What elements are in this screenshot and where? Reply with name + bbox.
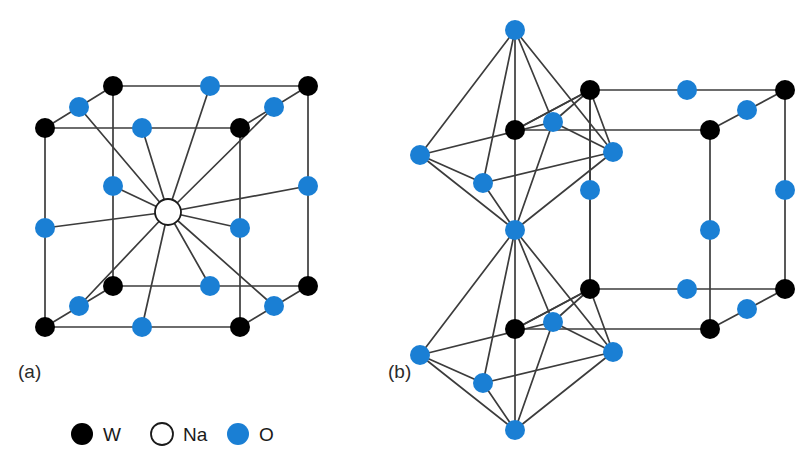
oxygen-atom [580,180,600,200]
oxygen-atom [200,76,220,96]
oxygen-atom [264,97,284,117]
tungsten-atom [35,317,55,337]
oxygen-atom [298,176,318,196]
na-o-bond [79,212,168,306]
tungsten-atom [298,76,318,96]
oxygen-atom [35,218,55,238]
na-o-bond [79,107,168,212]
legend: W Na O [71,423,274,445]
na-o-bond [168,107,274,212]
oxygen-atom [69,296,89,316]
oxygen-atom [264,296,284,316]
panel-a-label: (a) [18,361,41,382]
na-o-bond [168,86,210,212]
tungsten-legend-icon [71,423,93,445]
oxygen-atom [410,145,430,165]
oxygen-atom [103,176,123,196]
oxygen-atom [543,312,563,332]
oxygen-atom [543,112,563,132]
tungsten-atom [700,319,720,339]
octa-bond [483,230,515,383]
na-o-bond [168,212,274,306]
na-o-bond [168,186,308,212]
oxygen-atom [200,276,220,296]
octa-bond [515,230,553,322]
legend-item-sodium: Na [151,423,208,445]
tungsten-atom-octahedron-centre [505,120,525,140]
tungsten-atom [103,76,123,96]
oxygen-atom [473,373,493,393]
sodium-legend-icon [151,423,173,445]
tungsten-atom [230,317,250,337]
oxygen-atom [700,220,720,240]
legend-item-oxygen: O [227,423,274,445]
tungsten-atom-octahedron-centre [505,319,525,339]
na-o-bond [142,212,168,327]
tungsten-atom [580,279,600,299]
tungsten-atom [580,80,600,100]
oxygen-atom [677,279,697,299]
oxygen-atom [132,317,152,337]
oxygen-atom [69,97,89,117]
tungsten-atom [700,120,720,140]
legend-label-tungsten: W [103,424,121,445]
legend-label-sodium: Na [183,424,208,445]
oxygen-atom [603,142,623,162]
tungsten-atom [103,276,123,296]
figure-root: (a) [0,0,810,472]
oxygen-atom [737,100,757,120]
oxygen-atom [230,218,250,238]
octa-bond [420,30,515,155]
oxygen-atom [410,345,430,365]
oxygen-atom [505,420,525,440]
oxygen-legend-icon [227,423,249,445]
oxygen-atom [677,80,697,100]
octa-bond [420,355,515,430]
oxygen-atom [775,180,795,200]
structure-diagram: (a) [0,0,810,472]
legend-item-tungsten: W [71,423,121,445]
panel-b-group: (b) [388,20,795,440]
oxygen-atom [505,20,525,40]
oxygen-atom-shared-vertex [505,220,525,240]
tungsten-atom [775,80,795,100]
tungsten-atom [230,118,250,138]
octa-bond [420,155,515,230]
panel-a-group: (a) [18,76,318,382]
panel-b-label: (b) [388,361,411,382]
tungsten-atom [298,276,318,296]
octa-bond [420,122,553,155]
octa-bond [515,30,553,122]
sodium-atom [155,199,181,225]
oxygen-atom [737,299,757,319]
oxygen-atom [132,118,152,138]
tungsten-atom [775,279,795,299]
na-o-bond [45,212,168,228]
octa-bond [420,322,553,355]
oxygen-atom [603,342,623,362]
oxygen-atom [473,173,493,193]
legend-label-oxygen: O [259,424,274,445]
octa-bond [483,30,515,183]
tungsten-atom [35,118,55,138]
octa-bond [420,230,515,355]
